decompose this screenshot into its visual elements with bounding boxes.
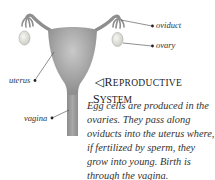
caption-line: if fertilized by sperm, they	[87, 141, 215, 155]
vagina	[67, 95, 78, 136]
oviduct-label: oviduct	[156, 21, 181, 30]
ovary-dot	[151, 45, 154, 48]
left-ovary	[19, 31, 30, 45]
caption-paragraph: Egg cells are produced in the ovaries. T…	[87, 99, 215, 180]
caption-line: ovaries. They pass along	[87, 113, 215, 127]
section-heading: ◁REPRODUCTIVE	[95, 76, 182, 89]
vagina-dot	[51, 117, 54, 120]
uterus-dot	[34, 79, 37, 82]
caption-line: grow into young. Birth is	[87, 155, 215, 169]
oviduct-dot	[151, 25, 154, 28]
uterus	[48, 27, 97, 96]
caption-line: oviducts into the uterus where,	[87, 127, 215, 141]
left-fimbriae	[22, 17, 33, 27]
caption-line: through the vagina.	[87, 169, 215, 180]
uterus-label: uterus	[9, 76, 30, 85]
vagina-label: vagina	[24, 114, 47, 123]
left-oviduct	[27, 15, 50, 30]
caption-line: Egg cells are produced in the	[87, 99, 215, 113]
ovary-label: ovary	[156, 41, 175, 50]
right-fimbriae	[113, 18, 124, 28]
pointer-triangle-icon: ◁	[95, 75, 105, 89]
right-ovary	[112, 33, 123, 47]
